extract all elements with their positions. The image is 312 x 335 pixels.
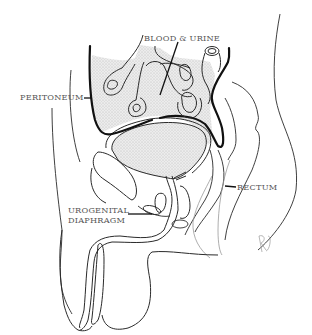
label-rectum: RECTUM [237, 182, 277, 192]
label-urogenital-diaphragm: UROGENITAL DIAPHRAGM [68, 205, 129, 225]
rectum-leader [225, 186, 236, 187]
bladder [106, 118, 211, 179]
diagram-drawing [0, 0, 312, 335]
prostate-urethra [79, 172, 190, 330]
label-blood-urine: BLOOD & URINE [144, 33, 220, 43]
label-peritoneum: PERITONEUM [20, 92, 83, 102]
external-genitalia [60, 230, 218, 331]
label-urogenital-line1: UROGENITAL [68, 205, 129, 215]
pelvis-diagram: BLOOD & URINE PERITONEUM RECTUM UROGENIT… [0, 0, 312, 335]
urogenital-diaphragm [138, 204, 188, 228]
label-urogenital-line2: DIAPHRAGM [68, 215, 129, 225]
rectum [193, 160, 230, 258]
